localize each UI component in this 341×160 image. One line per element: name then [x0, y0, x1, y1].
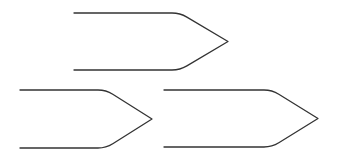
pentagon-arrow-bottom-right: [164, 90, 318, 147]
pentagon-arrow-top: [74, 13, 228, 70]
diagram-canvas: [0, 0, 341, 160]
pentagon-arrow-bottom-left: [20, 90, 152, 148]
